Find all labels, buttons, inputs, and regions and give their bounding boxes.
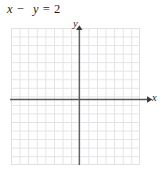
equation-right-value: 2 [54,2,60,17]
coordinate-plane [11,28,140,165]
equation-equals-sign: = [43,2,50,17]
equation-left-variable: x [7,2,13,17]
x-axis-label: x [152,93,157,104]
graph-figure: x − y = 2 y x [0,0,163,173]
grid-border [11,28,140,165]
y-axis-label: y [73,19,78,30]
equation-expression: x − y = 2 [7,1,60,18]
equation-second-variable: y [33,2,39,17]
equation-operator: − [17,2,24,17]
